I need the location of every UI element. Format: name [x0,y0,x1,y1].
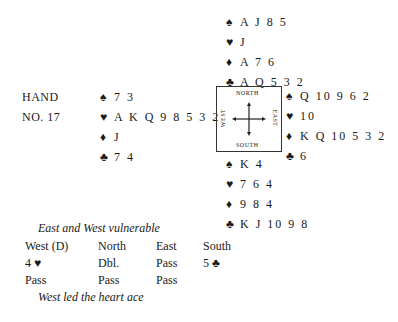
hand-label-line1: HAND [22,87,60,107]
heart-icon: ♥ [100,107,114,127]
auction-header-row: West (D) North East South [25,238,231,255]
auction-bid: Pass [156,272,203,289]
hand-label: HAND NO. 17 [22,87,60,127]
hand-label-line2: NO. 17 [22,107,60,127]
east-hearts: 10 [300,109,316,123]
spade-icon: ♠ [226,154,240,174]
heart-icon: ♥ [286,106,300,126]
north-hearts: J [240,35,247,49]
auction-bid: 5 ♣ [203,255,231,272]
auction-row: 4 ♥ Dbl. Pass 5 ♣ [25,255,231,272]
north-hand: ♠A J 8 5 ♥J ♦A 7 6 ♣A Q 5 3 2 [226,12,305,92]
auction-header-south: South [203,238,231,255]
east-spades: Q 10 9 6 2 [300,89,371,103]
opening-lead-note: West led the heart ace [38,290,144,305]
west-hand: ♠7 3 ♥A K Q 9 8 5 3 2 ♦J ♣7 4 [100,87,220,167]
auction-bid: Pass [98,272,156,289]
vulnerability-note: East and West vulnerable [38,221,160,236]
heart-icon: ♥ [226,32,240,52]
diamond-icon: ♦ [100,127,114,147]
west-diamonds: J [114,130,121,144]
auction-header-west: West (D) [25,238,98,255]
club-icon: ♣ [226,214,240,234]
north-diamonds: A 7 6 [240,55,276,69]
spade-icon: ♠ [226,12,240,32]
spade-icon: ♠ [100,87,114,107]
auction-bid: 4 ♥ [25,255,98,272]
north-spades: A J 8 5 [240,15,288,29]
compass-box: NORTH SOUTH EAST WEST [216,86,282,152]
south-spades: K 4 [240,157,264,171]
south-hand: ♠K 4 ♥7 6 4 ♦9 8 4 ♣K J 10 9 8 [226,154,309,234]
auction-header-east: East [156,238,203,255]
auction-bid: Pass [156,255,203,272]
auction-header-north: North [98,238,156,255]
compass-arrows-icon [217,87,281,151]
east-diamonds: K Q 10 5 3 2 [300,129,386,143]
spade-icon: ♠ [286,86,300,106]
heart-icon: ♥ [226,174,240,194]
auction-row: Pass Pass Pass [25,272,231,289]
auction-bid: Pass [25,272,98,289]
west-spades: 7 3 [114,90,135,104]
south-clubs: K J 10 9 8 [240,217,309,231]
west-hearts: A K Q 9 8 5 3 2 [114,110,220,124]
south-hearts: 7 6 4 [240,177,274,191]
auction-table: West (D) North East South 4 ♥ Dbl. Pass … [25,238,231,289]
diamond-icon: ♦ [286,126,300,146]
diamond-icon: ♦ [226,52,240,72]
west-clubs: 7 4 [114,150,135,164]
auction-bid: Dbl. [98,255,156,272]
club-icon: ♣ [100,147,114,167]
diamond-icon: ♦ [226,194,240,214]
south-diamonds: 9 8 4 [240,197,274,211]
auction-bid [203,272,231,289]
